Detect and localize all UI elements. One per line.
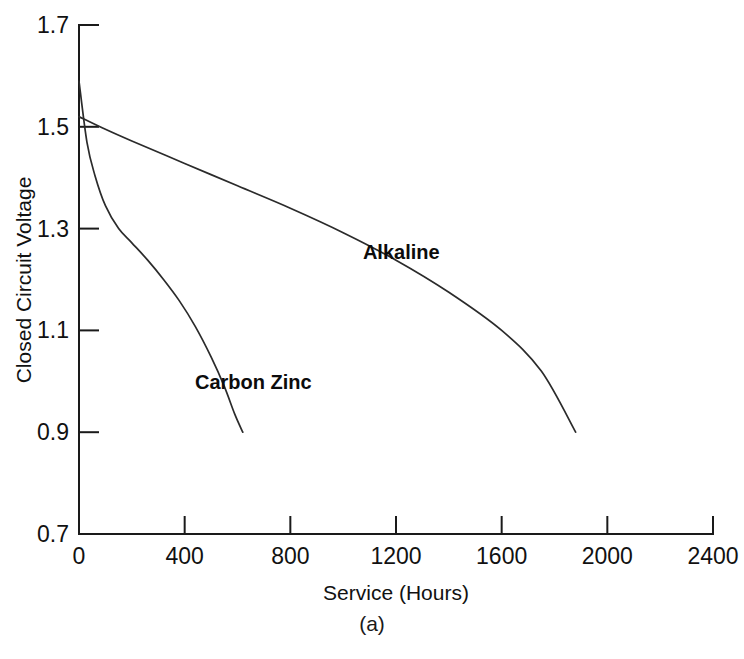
figure-caption: (a)	[0, 612, 744, 636]
y-tick-label-0.9: 0.9	[37, 419, 69, 445]
x-axis-title: Service (Hours)	[323, 581, 469, 604]
y-axis-ticks	[79, 25, 99, 432]
x-axis-tick-labels: 04008001200160020002400	[73, 543, 739, 569]
y-axis-title: Closed Circuit Voltage	[12, 177, 35, 384]
y-tick-label-1.5: 1.5	[37, 114, 69, 140]
y-tick-label-0.7: 0.7	[37, 521, 69, 547]
chart-series-lines	[79, 81, 576, 432]
y-tick-label-1.1: 1.1	[37, 317, 69, 343]
x-tick-label-800: 800	[271, 543, 309, 569]
battery-discharge-chart: 0.70.91.11.31.51.7 040080012001600200024…	[0, 0, 744, 620]
x-tick-label-2000: 2000	[582, 543, 633, 569]
x-axis-ticks	[185, 516, 713, 534]
x-tick-label-0: 0	[73, 543, 86, 569]
y-tick-label-1.7: 1.7	[37, 12, 69, 38]
x-tick-label-1600: 1600	[476, 543, 527, 569]
series-label-carbon-zinc: Carbon Zinc	[195, 371, 312, 393]
y-tick-label-1.3: 1.3	[37, 216, 69, 242]
y-axis-tick-labels: 0.70.91.11.31.51.7	[37, 12, 69, 547]
series-line-alkaline	[79, 117, 576, 433]
x-tick-label-1200: 1200	[370, 543, 421, 569]
chart-axes	[79, 25, 713, 534]
x-tick-label-400: 400	[165, 543, 203, 569]
figure-panel: 0.70.91.11.31.51.7 040080012001600200024…	[0, 0, 744, 659]
x-tick-label-2400: 2400	[687, 543, 738, 569]
series-label-alkaline: Alkaline	[363, 241, 440, 263]
